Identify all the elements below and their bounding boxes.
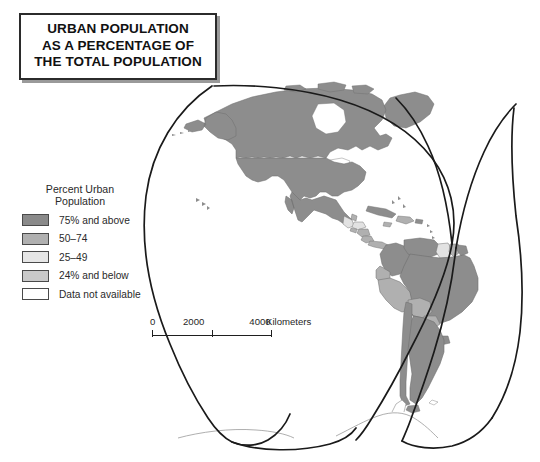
map-legend: Percent Urban Population 75% and above 5… — [22, 183, 167, 304]
region-guyana — [436, 243, 452, 258]
legend-swatch-75-and-above — [22, 214, 49, 226]
region-ecuador — [376, 266, 390, 284]
outline-right-bottom — [402, 418, 492, 448]
scale-label-2000: 2000 — [183, 316, 204, 327]
outline-cleft-left — [396, 98, 452, 244]
projection-outline — [144, 86, 522, 450]
legend-label-75-and-above: 75% and above — [59, 215, 130, 226]
aleutian-islands — [172, 130, 192, 136]
legend-heading: Percent Urban Population — [28, 183, 132, 208]
region-hispaniola — [396, 216, 414, 224]
legend-swatch-50-74 — [22, 233, 49, 245]
region-bolivia — [408, 298, 432, 318]
region-belize — [351, 214, 357, 221]
tierra-del-fuego — [406, 405, 420, 413]
legend-heading-line-1: Percent Urban — [28, 183, 132, 195]
region-hawaii — [196, 198, 210, 210]
legend-label-25-49: 25–49 — [59, 252, 87, 263]
legend-swatch-data-not-available — [22, 288, 49, 300]
region-puerto-rico — [415, 219, 423, 224]
region-costa-rica — [361, 236, 374, 243]
legend-item-data-not-available: Data not available — [22, 285, 167, 304]
title-line-3: THE TOTAL POPULATION — [29, 54, 207, 71]
region-french-guiana — [457, 245, 468, 256]
scale-bar-labels: 0 2000 4000 Kilometers — [150, 316, 315, 329]
scale-label-unit: Kilometers — [266, 316, 311, 327]
scale-tick-4000 — [271, 330, 272, 337]
region-canada-arctic-islands — [284, 82, 374, 94]
legend-item-50-74: 50–74 — [22, 229, 167, 248]
region-greenland — [384, 92, 434, 128]
region-cuba — [366, 206, 396, 218]
legend-item-75-and-above: 75% and above — [22, 211, 167, 230]
lesser-antilles — [427, 224, 436, 251]
outline-right-lobe — [402, 248, 456, 441]
legend-label-24-and-below: 24% and below — [59, 270, 129, 281]
legend-label-50-74: 50–74 — [59, 233, 87, 244]
legend-item-24-and-below: 24% and below — [22, 267, 167, 286]
region-united-states — [236, 158, 366, 200]
legend-item-25-49: 25–49 — [22, 248, 167, 267]
region-el-salvador — [350, 228, 357, 233]
region-uruguay — [436, 336, 450, 345]
legend-label-data-not-available: Data not available — [59, 289, 141, 300]
region-venezuela — [404, 238, 440, 258]
scale-label-0: 0 — [150, 316, 155, 327]
region-peru — [378, 278, 414, 312]
region-paraguay — [424, 316, 440, 330]
legend-swatch-24-and-below — [22, 270, 49, 282]
region-chile — [400, 302, 412, 406]
title-line-1: URBAN POPULATION — [29, 21, 207, 38]
great-lakes — [328, 158, 350, 167]
bahamas — [392, 196, 406, 208]
falkland-islands — [429, 400, 438, 405]
outline-americas-bottom — [232, 428, 356, 450]
map-figure: URBAN POPULATION AS A PERCENTAGE OF THE … — [0, 0, 540, 462]
region-suriname — [449, 244, 460, 257]
region-antarctica — [178, 400, 438, 438]
region-panama — [368, 241, 388, 249]
region-nicaragua — [357, 229, 370, 237]
region-guatemala — [343, 216, 354, 228]
scale-tick-2000 — [212, 330, 213, 337]
region-honduras — [352, 222, 366, 230]
landmasses — [172, 82, 478, 438]
scale-tick-0 — [152, 330, 153, 337]
region-alaska — [184, 112, 236, 140]
hudson-bay — [312, 103, 346, 134]
outline-americas-right — [214, 86, 454, 440]
region-canada — [204, 88, 392, 158]
region-brazil — [400, 254, 478, 324]
map-scale-bar: 0 2000 4000 Kilometers — [150, 316, 315, 337]
outline-cleft-right — [456, 104, 516, 248]
region-jamaica — [383, 222, 392, 227]
outline-right-lobe-east — [492, 108, 522, 418]
region-colombia — [380, 243, 412, 276]
region-mexico — [285, 192, 352, 224]
scale-bar-rule — [150, 330, 315, 337]
region-argentina — [408, 316, 444, 404]
legend-swatch-25-49 — [22, 251, 49, 263]
legend-heading-line-2: Population — [28, 195, 132, 207]
map-title-box: URBAN POPULATION AS A PERCENTAGE OF THE … — [19, 13, 217, 80]
title-line-2: AS A PERCENTAGE OF — [29, 38, 207, 55]
